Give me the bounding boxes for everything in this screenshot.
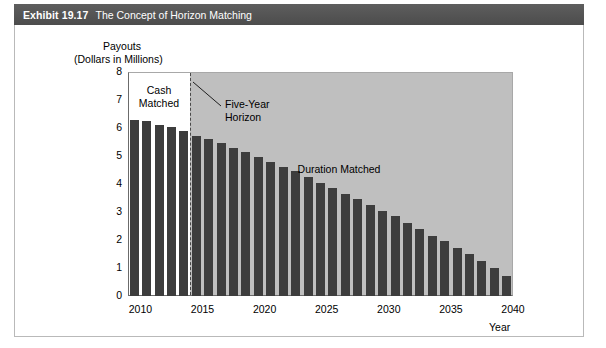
- bar-2012: [155, 125, 164, 296]
- x-tick-label-2025: 2025: [307, 303, 347, 315]
- bar-2016: [204, 139, 213, 296]
- bar-2022: [279, 167, 288, 296]
- bar-2020: [254, 157, 263, 296]
- bar-2040: [502, 276, 511, 296]
- bar-2031: [391, 216, 400, 296]
- horizon-matching-chart: Payouts (Dollars in Millions) 8765432102…: [0, 0, 606, 348]
- y-tick-label-1: 1: [100, 261, 122, 273]
- bar-2026: [328, 188, 337, 296]
- x-tick-label-2010: 2010: [120, 303, 160, 315]
- x-tick-label-2040: 2040: [493, 303, 533, 315]
- x-axis-title: Year: [489, 321, 510, 333]
- bar-2025: [316, 183, 325, 296]
- bar-2034: [428, 236, 437, 296]
- exhibit-figure: Exhibit 19.17 The Concept of Horizon Mat…: [0, 0, 606, 348]
- bar-2018: [229, 148, 238, 296]
- bar-2038: [477, 261, 486, 296]
- y-tick-label-8: 8: [100, 65, 122, 77]
- y-axis-title: Payouts: [103, 40, 141, 52]
- bar-2028: [353, 199, 362, 296]
- bar-2017: [217, 143, 226, 296]
- x-tick-label-2030: 2030: [369, 303, 409, 315]
- bar-2015: [192, 136, 201, 296]
- y-tick-label-2: 2: [100, 233, 122, 245]
- x-tick-label-2015: 2015: [183, 303, 223, 315]
- bar-2014: [179, 131, 188, 296]
- y-axis-units-label: (Dollars in Millions): [74, 53, 163, 65]
- y-tick-label-3: 3: [100, 205, 122, 217]
- annotation-five-year-horizon: Five-Year Horizon: [225, 98, 270, 123]
- y-tick-label-5: 5: [100, 149, 122, 161]
- bar-2024: [304, 177, 313, 296]
- y-tick-label-4: 4: [100, 177, 122, 189]
- bar-2019: [241, 152, 250, 296]
- bar-2030: [378, 211, 387, 296]
- bar-2027: [341, 194, 350, 296]
- y-tick-label-6: 6: [100, 121, 122, 133]
- bar-2036: [453, 248, 462, 296]
- annotation-duration-matched: Duration Matched: [279, 163, 399, 176]
- bar-2023: [291, 171, 300, 296]
- bar-2010: [130, 120, 139, 296]
- annotation-cash-matched: Cash Matched: [99, 84, 219, 109]
- bar-2021: [266, 162, 275, 296]
- bar-2029: [366, 205, 375, 296]
- bar-2037: [465, 254, 474, 296]
- bar-2013: [167, 127, 176, 296]
- bar-2033: [415, 229, 424, 296]
- x-tick-label-2020: 2020: [245, 303, 285, 315]
- x-tick-label-2035: 2035: [431, 303, 471, 315]
- bar-2035: [440, 241, 449, 296]
- y-tick-label-0: 0: [100, 289, 122, 301]
- bar-2032: [403, 223, 412, 296]
- bar-2011: [142, 121, 151, 296]
- bar-2039: [490, 268, 499, 296]
